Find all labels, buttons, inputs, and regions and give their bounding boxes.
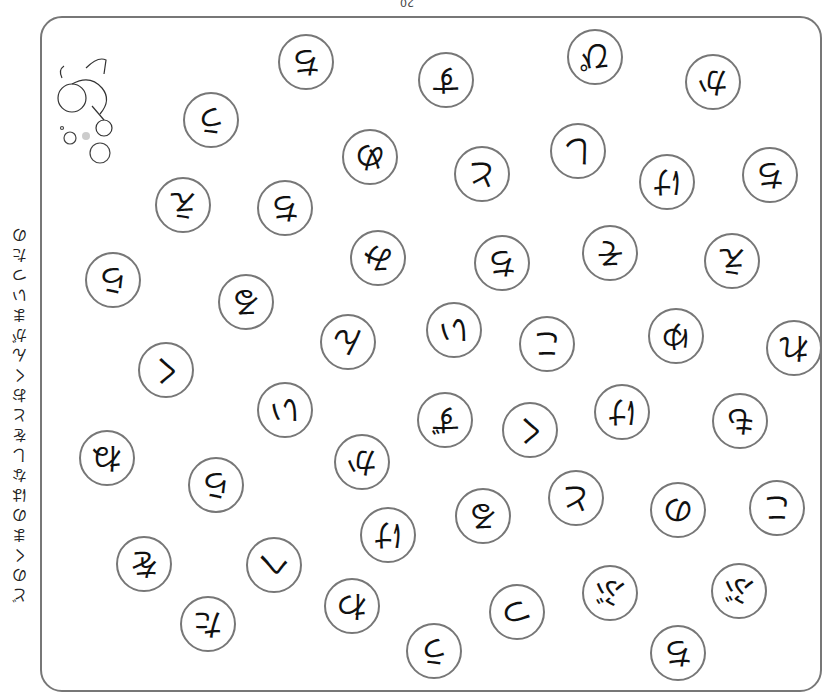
child-blowing-bubbles-illustration (52, 28, 132, 168)
kana-char: え (168, 190, 198, 220)
kana-char: た (193, 609, 223, 639)
kana-bubble[interactable]: ち (474, 235, 530, 291)
kana-char: く (515, 415, 545, 445)
kana-char: う (419, 636, 449, 666)
side-char: の (4, 225, 34, 245)
kana-bubble[interactable]: れ (766, 320, 822, 376)
kana-char: と (561, 483, 591, 513)
kana-bubble[interactable]: の (650, 482, 706, 538)
kana-char: ん (333, 327, 363, 357)
kana-bubble[interactable]: へ (246, 537, 302, 593)
kana-char: け (607, 397, 637, 427)
kana-char: る (231, 287, 261, 317)
kana-char: す (431, 65, 461, 95)
kana-bubble[interactable]: つ (489, 584, 545, 640)
kana-char: か (698, 67, 728, 97)
kana-char: わ (337, 591, 367, 621)
kana-bubble[interactable]: す (418, 52, 474, 108)
kana-bubble[interactable]: く (502, 402, 558, 458)
kana-bubble[interactable]: ち (278, 34, 334, 90)
kana-char: こ (762, 493, 792, 523)
kana-char: も (725, 406, 755, 436)
kana-bubble[interactable]: た (180, 596, 236, 652)
kana-char: く (151, 355, 181, 385)
kana-bubble[interactable]: え (155, 177, 211, 233)
side-char: く (4, 365, 34, 385)
kana-char: し (563, 136, 593, 166)
kana-bubble[interactable]: ぶ (582, 565, 638, 621)
kana-char: ね (92, 443, 122, 473)
kana-bubble[interactable]: い (257, 382, 313, 438)
kana-char: ら (201, 470, 231, 500)
kana-bubble[interactable]: う (406, 623, 462, 679)
kana-bubble[interactable]: こ (519, 316, 575, 372)
kana-char: る (468, 501, 498, 531)
kana-bubble[interactable]: う (183, 92, 239, 148)
kana-char: ず (430, 405, 460, 435)
kana-char: そ (595, 238, 625, 268)
side-char: た (4, 245, 34, 265)
side-char: な (4, 465, 34, 485)
kana-char: う (196, 105, 226, 135)
kana-bubble[interactable]: け (639, 154, 695, 210)
kana-bubble[interactable]: か (685, 54, 741, 110)
kana-bubble[interactable]: る (455, 488, 511, 544)
kana-bubble[interactable]: み (350, 230, 406, 286)
kana-bubble[interactable]: く (138, 342, 194, 398)
kana-char: え (717, 246, 747, 276)
kana-char: を (129, 549, 159, 579)
kana-bubble[interactable]: ち (650, 625, 706, 681)
kana-bubble[interactable]: わ (324, 578, 380, 634)
kana-bubble[interactable]: ぶ (711, 563, 767, 619)
kana-bubble[interactable]: い (426, 302, 482, 358)
kana-char: い (439, 315, 469, 345)
side-char: の (4, 565, 34, 585)
kana-char: ぴ (580, 42, 610, 72)
kana-bubble[interactable]: ち (257, 180, 313, 236)
kana-char: か (347, 447, 377, 477)
page-number: 20 (400, 0, 414, 9)
kana-char: と (467, 159, 497, 189)
kana-bubble[interactable]: を (116, 536, 172, 592)
side-char: く (4, 545, 34, 565)
side-char: ん (4, 345, 34, 365)
kana-bubble[interactable]: ぴ (567, 29, 623, 85)
kana-bubble[interactable]: ら (85, 252, 141, 308)
kana-char: ち (291, 47, 321, 77)
kana-char: へ (259, 550, 289, 580)
kana-bubble[interactable]: め (342, 129, 398, 185)
side-char: を (4, 425, 34, 445)
kana-bubble[interactable]: ね (79, 430, 135, 486)
kana-bubble[interactable]: し (550, 123, 606, 179)
kana-char: ち (487, 248, 517, 278)
kana-bubble[interactable]: と (454, 146, 510, 202)
side-char: ま (4, 305, 34, 325)
kana-char: け (652, 167, 682, 197)
kana-char: れ (779, 333, 809, 363)
kana-char: ち (663, 638, 693, 668)
kana-bubble[interactable]: け (594, 384, 650, 440)
kana-bubble[interactable]: と (548, 470, 604, 526)
kana-bubble[interactable]: る (218, 274, 274, 330)
kana-bubble[interactable]: ん (320, 314, 376, 370)
side-instruction-text: のたついまがんくおとをしなはのまくのど (4, 225, 34, 675)
kana-bubble[interactable]: こ (749, 480, 805, 536)
kana-bubble[interactable]: え (704, 233, 760, 289)
kana-char: こ (532, 329, 562, 359)
kana-char: ゆ (661, 321, 691, 351)
kana-char: み (363, 243, 393, 273)
side-char: お (4, 385, 34, 405)
kana-bubble[interactable]: か (334, 434, 390, 490)
kana-bubble[interactable]: ゆ (648, 308, 704, 364)
kana-bubble[interactable]: ら (188, 457, 244, 513)
kana-bubble[interactable]: ず (417, 392, 473, 448)
kana-char: ぶ (595, 578, 625, 608)
kana-bubble[interactable]: け (360, 507, 416, 563)
kana-bubble[interactable]: ち (742, 147, 798, 203)
side-char: い (4, 285, 34, 305)
kana-char: め (355, 142, 385, 172)
kana-char: け (373, 520, 403, 550)
kana-bubble[interactable]: そ (582, 225, 638, 281)
kana-char: ち (755, 160, 785, 190)
kana-bubble[interactable]: も (712, 393, 768, 449)
